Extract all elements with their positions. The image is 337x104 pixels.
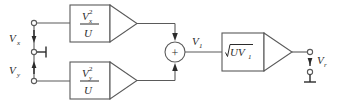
terminal-vy[interactable] <box>31 78 36 83</box>
summer-input-top-arrow-icon <box>172 33 178 41</box>
terminal-common[interactable] <box>31 49 36 54</box>
circuit-canvas: V x V y V x 2 U V y 2 U + <box>0 0 337 104</box>
amplifier-out-triangle <box>264 33 292 71</box>
summer-input-bottom-arrow-icon <box>172 63 178 71</box>
sqrt-radicand: UV <box>230 46 246 58</box>
squarer-x-denominator: U <box>84 27 93 39</box>
label-vx: V <box>9 32 17 44</box>
amplifier-y-triangle <box>110 62 137 99</box>
sqrt-radicand-subscript: 1 <box>248 53 252 61</box>
squarer-x-numerator-exponent: 2 <box>89 8 93 16</box>
label-vx-subscript: x <box>16 39 21 47</box>
circuit-diagram: V x V y V x 2 U V y 2 U + <box>0 0 337 104</box>
label-vy-subscript: y <box>16 71 21 79</box>
label-v1-subscript: 1 <box>199 42 203 50</box>
squarer-y-numerator-exponent: 2 <box>89 65 93 73</box>
squarer-y-denominator: U <box>84 84 93 96</box>
summing-junction-sign: + <box>171 46 178 60</box>
label-vy: V <box>9 64 17 76</box>
terminal-vr-negative[interactable] <box>307 69 312 74</box>
amplifier-x-triangle <box>110 5 137 42</box>
terminal-vx[interactable] <box>31 20 36 25</box>
label-vr-subscript: r <box>324 61 327 69</box>
vr-polarity-arrow-icon <box>308 58 313 65</box>
terminal-vr-positive[interactable] <box>307 49 312 54</box>
vx-polarity-arrow-icon <box>32 36 37 43</box>
vy-polarity-arrow-icon <box>32 61 37 68</box>
